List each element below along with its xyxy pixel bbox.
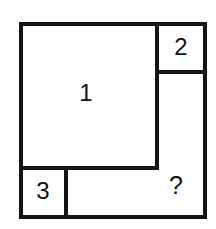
figure-canvas: 1 2 3 ? bbox=[0, 0, 216, 229]
region-3-label: 3 bbox=[36, 177, 49, 204]
region-2-label: 2 bbox=[174, 33, 187, 60]
dissection-diagram: 1 2 3 ? bbox=[0, 0, 216, 229]
region-1-label: 1 bbox=[79, 79, 92, 106]
region-unknown-label: ? bbox=[169, 171, 183, 199]
